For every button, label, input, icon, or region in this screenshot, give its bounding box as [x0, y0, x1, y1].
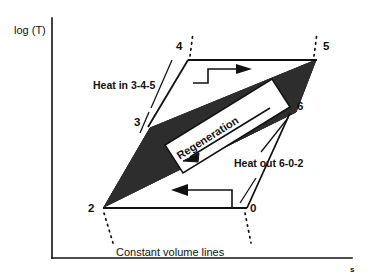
heat-out-annotation: Heat out 6-0-2: [234, 158, 303, 169]
vertex-label-5: 5: [323, 41, 329, 53]
vertex-label-6: 6: [297, 101, 303, 113]
vertex-label-3: 3: [134, 117, 140, 129]
heat-in-annotation: Heat in 3-4-5: [93, 80, 155, 91]
heat-out-direction-arrow: [171, 184, 232, 207]
vertex-label-4: 4: [176, 41, 182, 53]
cv-line-at-5: [314, 33, 317, 56]
heat-in-direction-arrow: [193, 64, 252, 83]
cv-line-at-0: [245, 213, 251, 243]
figure-canvas: log (T) s 4 5 6 3 2 0 Heat in 3-4-5 Rege…: [0, 0, 380, 279]
cv-line-at-2: [104, 213, 113, 243]
y-axis-label: log (T): [14, 25, 46, 36]
x-axis-label: s: [350, 266, 354, 274]
vertex-label-2: 2: [88, 203, 94, 215]
cv-line-at-4: [190, 33, 193, 56]
constant-volume-caption: Constant volume lines: [116, 247, 224, 258]
vertex-label-0: 0: [250, 203, 256, 215]
